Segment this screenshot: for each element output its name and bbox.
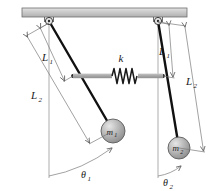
angle-arc-right: [158, 166, 181, 176]
angle-right: θ 2: [158, 166, 181, 191]
length-left-L2-sub: 2: [38, 96, 42, 104]
ext-left-L1-bottom: [64, 76, 74, 82]
left-pendulum: m 1: [45, 17, 126, 143]
spring-coil: [112, 69, 137, 84]
rod-right: [158, 21, 179, 148]
right-pendulum: m 2: [154, 17, 191, 159]
ceiling-support: [22, 8, 187, 17]
pivot-left-center: [48, 20, 50, 22]
angle-left: θ 1: [49, 148, 112, 183]
angle-right-sub: 2: [170, 183, 174, 191]
dimension-right-L2: [158, 22, 205, 152]
mass-right-label: m: [173, 143, 180, 153]
ext-right-L2-top: [158, 22, 186, 26]
dimension-left-L2: [26, 23, 113, 144]
angle-left-sub: 1: [88, 175, 92, 183]
length-left-L1-label: L: [41, 51, 48, 63]
length-left-L1-sub: 1: [49, 58, 53, 66]
angle-left-label: θ: [81, 169, 86, 180]
coupled-pendulum-diagram: m 1 m 2 k L 1 L 2: [0, 0, 223, 191]
length-right-L1-label: L: [158, 45, 165, 57]
length-right-L2-sub: 2: [193, 82, 197, 90]
length-right-L2-label: L: [185, 75, 192, 87]
ceiling-bar: [22, 8, 187, 17]
mass-right-label-sub: 2: [180, 149, 183, 155]
length-left-L2-label: L: [30, 89, 37, 101]
spring-coupling: k: [73, 52, 163, 84]
ext-left-L2-top: [26, 23, 49, 36]
length-right-L1-sub: 1: [166, 52, 170, 60]
mass-left-label-sub: 1: [114, 132, 117, 138]
spring-bar-right: [138, 74, 163, 79]
spring-bar-left: [73, 74, 112, 79]
angle-right-label: θ: [163, 177, 168, 188]
spring-constant-label: k: [119, 52, 125, 64]
